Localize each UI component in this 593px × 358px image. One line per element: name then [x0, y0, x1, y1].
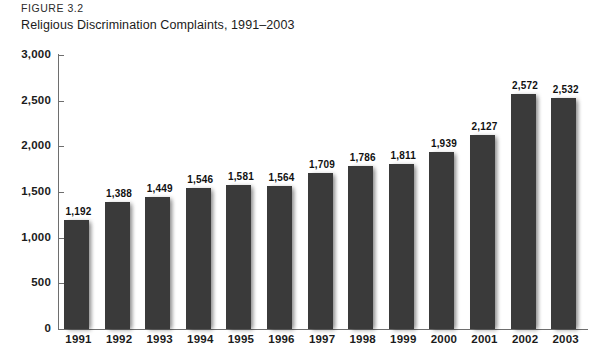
x-axis-label-2000: 2000 [423, 333, 464, 345]
y-axis-tick-label: 1,500 [21, 185, 51, 197]
x-axis-label-1996: 1996 [261, 333, 302, 345]
x-axis-label-1993: 1993 [139, 333, 180, 345]
y-axis-tick-label: 3,000 [21, 48, 51, 60]
y-axis-tick-label: 2,500 [21, 94, 51, 106]
x-axis-label-1991: 1991 [58, 333, 99, 345]
x-axis-category-labels: 1991199219931994199519961997199819992000… [58, 0, 588, 358]
y-axis-tick-label: 1,000 [21, 231, 51, 243]
x-axis-label-1995: 1995 [220, 333, 261, 345]
x-axis-label-1994: 1994 [180, 333, 221, 345]
y-axis-tick-label: 0 [44, 322, 51, 334]
x-axis-label-1999: 1999 [383, 333, 424, 345]
x-axis-label-2003: 2003 [545, 333, 586, 345]
x-axis-label-2002: 2002 [505, 333, 546, 345]
x-axis-label-1997: 1997 [302, 333, 343, 345]
x-axis-label-2001: 2001 [464, 333, 505, 345]
bar-chart: 3,0002,5002,0001,5001,0005000 1,1921,388… [0, 0, 593, 358]
y-axis-tick-label: 2,000 [21, 139, 51, 151]
y-axis-tick-label: 500 [31, 276, 51, 288]
x-axis-label-1992: 1992 [99, 333, 140, 345]
x-axis-label-1998: 1998 [342, 333, 383, 345]
